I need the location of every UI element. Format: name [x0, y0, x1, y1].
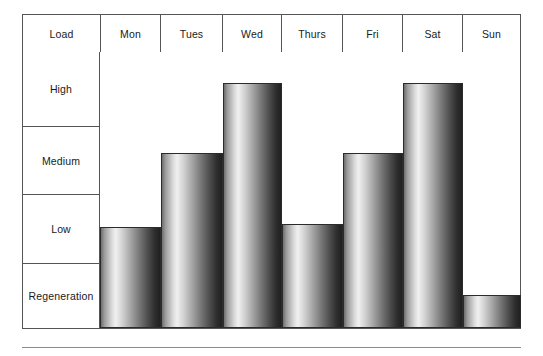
bar-sat [403, 83, 463, 328]
bar-sun [463, 295, 521, 328]
load-band-high: High [23, 52, 99, 126]
header-cell-thurs: Thurs [281, 15, 342, 52]
header-cell-mon: Mon [100, 15, 160, 52]
bar-thurs [282, 224, 343, 328]
load-band-low: Low [23, 194, 99, 263]
table-header-row: Load Mon Tues Wed Thurs Fri Sat Sun [23, 15, 520, 52]
header-cell-tues: Tues [160, 15, 222, 52]
header-cell-load: Load [23, 15, 100, 52]
load-chart-figure: Load Mon Tues Wed Thurs Fri Sat Sun High… [0, 0, 543, 356]
load-band-medium: Medium [23, 126, 99, 194]
load-band-regeneration: Regeneration [23, 263, 99, 328]
bottom-divider-rule [22, 347, 521, 348]
load-chart-table: Load Mon Tues Wed Thurs Fri Sat Sun High… [22, 14, 521, 329]
header-cell-sat: Sat [402, 15, 462, 52]
header-cell-wed: Wed [222, 15, 281, 52]
bar-fri [343, 153, 403, 328]
bar-tues [161, 153, 223, 328]
load-axis-label-column: High Medium Low Regeneration [23, 52, 100, 328]
bar-mon [100, 227, 161, 328]
header-cell-sun: Sun [462, 15, 520, 52]
plot-area [100, 52, 520, 328]
bar-wed [223, 83, 282, 328]
plot-body: High Medium Low Regeneration [23, 52, 520, 328]
header-cell-fri: Fri [342, 15, 402, 52]
